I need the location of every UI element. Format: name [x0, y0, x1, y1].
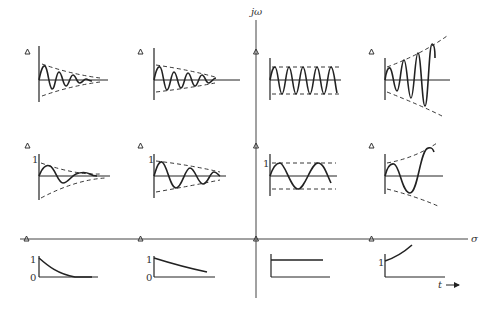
triangle-icon	[369, 49, 374, 54]
y-tick-one: 1	[148, 154, 154, 165]
triangle-icon	[138, 143, 143, 148]
triangle-icon	[369, 143, 374, 148]
response-plot-r2c4	[385, 143, 443, 206]
triangle-icon	[138, 49, 143, 54]
y-tick-one: 1	[263, 158, 269, 169]
response-plot-r3c1: 1 0	[30, 254, 98, 283]
s-plane-axes: jω σ	[20, 6, 479, 298]
time-axis-label: t	[438, 279, 443, 290]
triangle-icon	[25, 49, 30, 54]
response-plot-r1c4	[385, 36, 450, 116]
jw-axis-label: jω	[249, 6, 262, 17]
y-tick-one: 1	[30, 254, 36, 265]
response-plot-r2c1: 1	[32, 154, 110, 200]
response-plot-r1c2	[154, 48, 240, 100]
triangle-icon	[25, 143, 30, 148]
response-plot-r2c3: 1	[263, 154, 337, 196]
y-tick-zero: 0	[30, 272, 36, 283]
response-plot-r3c3	[271, 254, 330, 277]
response-plot-r1c1	[39, 46, 108, 102]
s-plane-diagram: jω σ	[0, 0, 493, 310]
response-plot-r1c3	[270, 58, 341, 100]
y-tick-one: 1	[32, 154, 38, 165]
sigma-axis-label: σ	[471, 233, 479, 244]
y-tick-zero: 0	[146, 272, 152, 283]
response-plot-r2c2: 1	[148, 154, 226, 198]
y-tick-one: 1	[146, 254, 152, 265]
response-plot-r3c4: 1 t	[378, 245, 459, 290]
y-tick-one: 1	[378, 257, 384, 268]
response-plot-r3c2: 1 0	[146, 254, 215, 283]
